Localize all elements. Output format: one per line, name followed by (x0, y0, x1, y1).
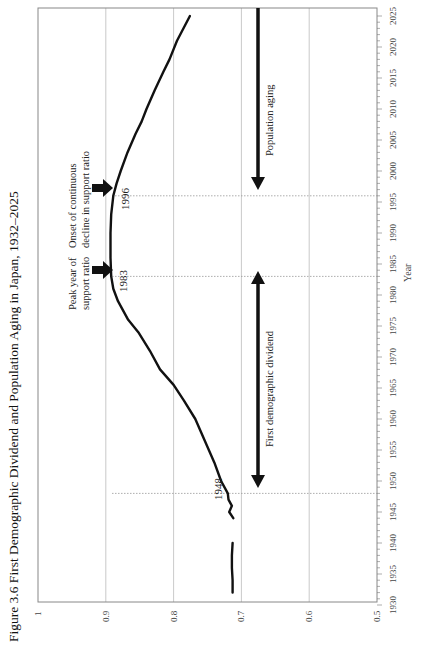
value-tick-label: 0.8 (169, 610, 179, 622)
year-tick-label: 1970 (388, 348, 398, 367)
year-tick-label: 1975 (388, 317, 398, 336)
value-tick-label: 1 (33, 612, 43, 617)
value-tick-label: 0.9 (101, 610, 111, 622)
value-axis-ticks: 0.50.60.70.80.91 (33, 610, 382, 622)
year-tick-label: 1950 (388, 472, 398, 491)
value-tick-label: 0.6 (304, 610, 314, 622)
year-label-1948: 1948 (212, 478, 224, 501)
year-tick-label: 2020 (388, 38, 398, 57)
year-tick-label: 1980 (388, 286, 398, 305)
figure: Figure 3.6 First Demographic Dividend an… (0, 0, 423, 650)
year-tick-label: 1995 (388, 193, 398, 212)
guide-lines (112, 196, 377, 494)
aging-arrow-icon (251, 8, 265, 190)
peak-label-line2: support ratio (80, 257, 91, 310)
year-tick-label: 1940 (388, 534, 398, 553)
year-label-1996: 1996 (119, 188, 131, 211)
figure-title: Figure 3.6 First Demographic Dividend an… (6, 191, 21, 642)
year-tick-label: 1990 (388, 224, 398, 243)
year-tick-label: 1965 (388, 379, 398, 398)
year-tick-label: 2005 (388, 131, 398, 150)
onset-label-line1: Onset of continuous (67, 163, 78, 248)
peak-label-line1: Peak year of (67, 257, 78, 310)
onset-label-line2: decline in support ratio (80, 151, 91, 248)
value-tick-label: 0.5 (372, 610, 382, 622)
aging-label: Population aging (264, 84, 275, 156)
year-tick-label: 1930 (388, 596, 398, 615)
year-tick-label: 2010 (388, 100, 398, 119)
annotations: Peak year of support ratio Onset of cont… (67, 8, 275, 500)
year-tick-label: 1945 (388, 503, 398, 522)
support-ratio-chart: Figure 3.6 First Demographic Dividend an… (0, 0, 423, 650)
support-ratio-segment (111, 16, 234, 518)
dividend-label: First demographic dividend (264, 330, 275, 447)
year-tick-label: 1935 (388, 565, 398, 584)
year-tick-label: 1985 (388, 255, 398, 274)
support-ratio-line (111, 16, 234, 593)
year-tick-label: 2025 (388, 7, 398, 26)
year-tick-label: 2000 (388, 162, 398, 181)
year-axis-ticks: 1930193519401945195019551960196519701975… (377, 7, 398, 615)
x-axis-title: Year (402, 263, 413, 282)
year-tick-label: 1955 (388, 441, 398, 460)
gridlines (106, 8, 309, 602)
onset-arrow-icon (92, 179, 113, 197)
year-label-1983: 1983 (117, 270, 129, 293)
year-tick-label: 2015 (388, 69, 398, 88)
year-tick-label: 1960 (388, 410, 398, 429)
value-tick-label: 0.7 (236, 610, 246, 622)
dividend-double-arrow-icon (251, 271, 265, 488)
support-ratio-segment (232, 543, 233, 593)
